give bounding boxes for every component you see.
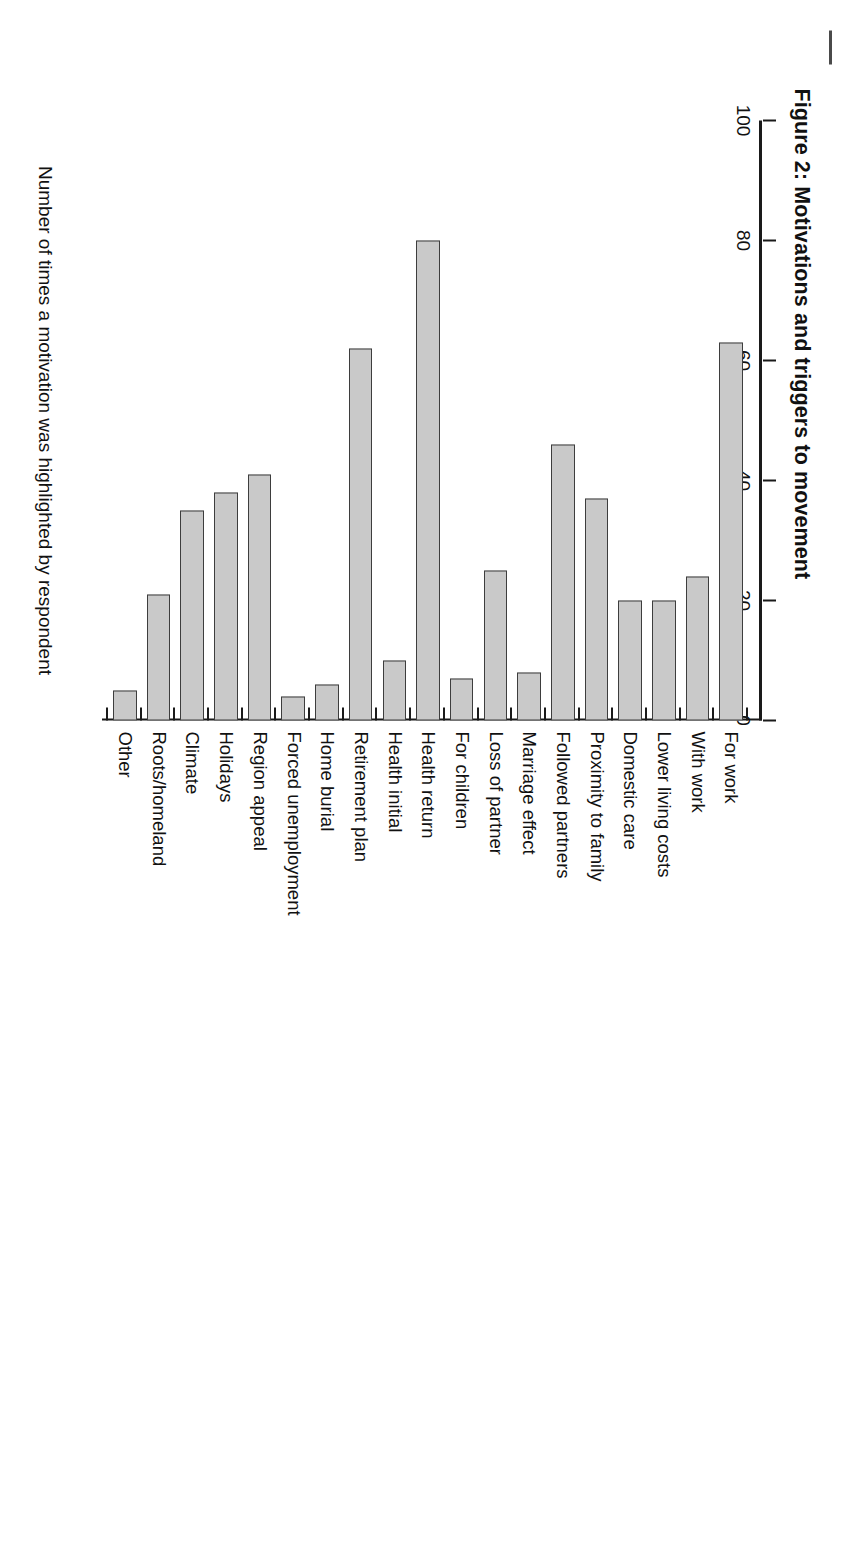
category-axis-label: Forced unemployment — [284, 731, 303, 915]
bar[interactable] — [214, 492, 238, 720]
category-axis-label: Region appeal — [250, 731, 269, 850]
category-axis-tick — [443, 707, 445, 720]
bar-row[interactable]: Other — [113, 120, 137, 720]
category-axis-label: Retirement plan — [351, 731, 370, 862]
value-axis-tick — [763, 479, 776, 481]
bar[interactable] — [248, 474, 272, 720]
bar[interactable] — [383, 660, 407, 720]
bar-row[interactable]: Forced unemployment — [281, 120, 305, 720]
bar-row[interactable]: Roots/homeland — [147, 120, 171, 720]
bar[interactable] — [147, 594, 171, 720]
bar-row[interactable]: Climate — [180, 120, 204, 720]
category-axis-label: Domestic care — [621, 731, 640, 849]
bar-chart-plot-area: 020406080100 For workWith workLower livi… — [108, 120, 748, 720]
bar[interactable] — [281, 696, 305, 720]
bar[interactable] — [585, 498, 609, 720]
bar[interactable] — [517, 672, 541, 720]
bar-row[interactable]: For work — [719, 120, 743, 720]
category-axis-label: Proximity to family — [587, 731, 606, 881]
value-axis-tick — [763, 719, 776, 721]
category-axis-label: Health return — [419, 731, 438, 838]
bar-row[interactable]: With work — [686, 120, 710, 720]
bar-row[interactable]: Lower living costs — [652, 120, 676, 720]
bar[interactable] — [315, 684, 339, 720]
category-axis-label: For work — [722, 731, 741, 803]
category-axis-tick — [106, 707, 108, 720]
category-axis-tick — [645, 707, 647, 720]
bar[interactable] — [686, 576, 710, 720]
value-axis-tick — [763, 119, 776, 121]
category-axis-tick — [477, 707, 479, 720]
category-axis-tick — [544, 707, 546, 720]
category-axis-label: Holidays — [217, 731, 236, 802]
bar-row[interactable]: Domestic care — [618, 120, 642, 720]
bar[interactable] — [484, 570, 508, 720]
category-axis-label: Marriage effect — [520, 731, 539, 854]
bar-row[interactable]: Health initial — [383, 120, 407, 720]
bar-row[interactable]: For children — [450, 120, 474, 720]
category-axis-tick — [241, 707, 243, 720]
figure-canvas: Figure 2: Motivations and triggers to mo… — [0, 0, 856, 1555]
category-axis-tick — [375, 707, 377, 720]
category-axis-label: Lower living costs — [655, 731, 674, 877]
bar[interactable] — [618, 600, 642, 720]
category-axis-tick — [207, 707, 209, 720]
category-axis-tick — [611, 707, 613, 720]
figure-title: Figure 2: Motivations and triggers to mo… — [789, 88, 814, 579]
bar-row[interactable]: Holidays — [214, 120, 238, 720]
category-axis-tick — [409, 707, 411, 720]
bar[interactable] — [349, 348, 373, 720]
bar-row[interactable]: Followed partners — [551, 120, 575, 720]
category-axis-label: For children — [452, 731, 471, 829]
bar-row[interactable]: Loss of partner — [484, 120, 508, 720]
page-registration-tick — [829, 30, 832, 64]
bar[interactable] — [652, 600, 676, 720]
category-axis-tick — [342, 707, 344, 720]
bar[interactable] — [113, 690, 137, 720]
bar[interactable] — [416, 240, 440, 720]
category-axis-tick — [578, 707, 580, 720]
category-axis-label: Climate — [183, 731, 202, 794]
value-axis-tick — [763, 599, 776, 601]
category-axis-tick — [510, 707, 512, 720]
category-axis-label: Roots/homeland — [149, 731, 168, 866]
category-axis-label: With work — [688, 731, 707, 812]
value-axis-tick — [763, 239, 776, 241]
bar-row[interactable]: Region appeal — [248, 120, 272, 720]
category-axis-tick — [308, 707, 310, 720]
value-axis-tick — [763, 359, 776, 361]
bar-row[interactable]: Home burial — [315, 120, 339, 720]
bar[interactable] — [551, 444, 575, 720]
category-axis-label: Health initial — [385, 731, 404, 832]
category-axis-label: Followed partners — [554, 731, 573, 878]
bar-row[interactable]: Retirement plan — [349, 120, 373, 720]
category-axis-tick — [746, 707, 748, 720]
category-axis-label: Loss of partner — [486, 731, 505, 854]
category-axis-label: Other — [116, 731, 135, 777]
category-axis-tick — [679, 707, 681, 720]
bar[interactable] — [180, 510, 204, 720]
value-axis-title: Number of times a motivation was highlig… — [34, 120, 56, 720]
bar-row[interactable]: Proximity to family — [585, 120, 609, 720]
category-axis-label: Home burial — [318, 731, 337, 831]
bar[interactable] — [450, 678, 474, 720]
bar[interactable] — [719, 342, 743, 720]
category-axis-tick — [274, 707, 276, 720]
category-axis-tick — [173, 707, 175, 720]
bar-row[interactable]: Marriage effect — [517, 120, 541, 720]
category-axis-tick — [140, 707, 142, 720]
bar-row[interactable]: Health return — [416, 120, 440, 720]
category-axis-tick — [712, 707, 714, 720]
